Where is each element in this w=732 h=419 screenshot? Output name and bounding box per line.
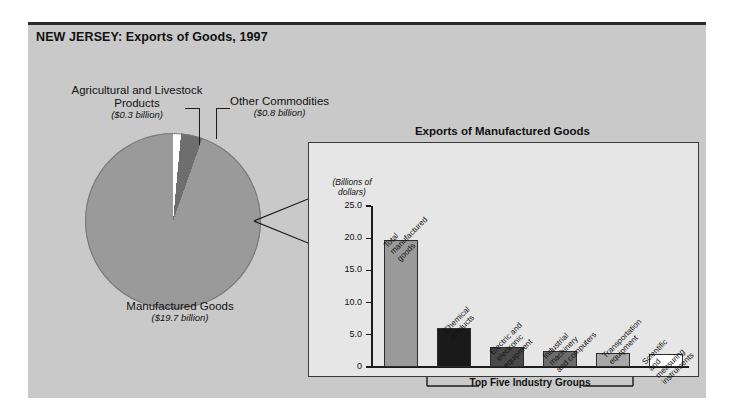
y-tick-label-5: 25.0 — [318, 200, 362, 210]
y-tick-5 — [366, 205, 371, 206]
inner-chart-title: Exports of Manufactured Goods — [308, 125, 697, 137]
pie-label-other-amount: ($0.8 billion) — [212, 108, 347, 119]
y-tick-0 — [366, 366, 371, 367]
pie-label-manufactured-amount: ($19.7 billion) — [105, 313, 255, 324]
leader-line-other-v — [216, 108, 217, 139]
figure-root: NEW JERSEY: Exports of Goods, 1997 Agric… — [0, 0, 732, 419]
pie-label-agricultural-amount: ($0.3 billion) — [62, 110, 212, 121]
leader-line-agricultural-h — [185, 108, 200, 109]
y-tick-2 — [366, 302, 371, 303]
y-tick-3 — [366, 270, 371, 271]
leader-line-other-h — [216, 108, 230, 109]
pie-label-other: Other Commodities ($0.8 billion) — [212, 95, 347, 119]
pie-slices — [85, 133, 261, 309]
title-rule — [28, 22, 706, 25]
y-tick-label-2: 10.0 — [318, 297, 362, 307]
page-title: NEW JERSEY: Exports of Goods, 1997 — [36, 30, 268, 44]
y-tick-label-3: 15.0 — [318, 264, 362, 274]
pie-label-manufactured-name: Manufactured Goods — [105, 300, 255, 313]
y-tick-label-0: 0 — [318, 361, 362, 371]
pie-label-agricultural-name: Agricultural and Livestock Products — [62, 84, 212, 110]
leader-line-agricultural-v — [199, 108, 200, 145]
y-tick-label-1: 5.0 — [318, 329, 362, 339]
y-axis-unit-label: (Billions of dollars) — [318, 178, 386, 198]
y-tick-label-4: 20.0 — [318, 232, 362, 242]
pie-label-agricultural: Agricultural and Livestock Products ($0.… — [62, 84, 212, 120]
inner-chart-box: (Billions of dollars) 05.010.015.020.025… — [308, 142, 699, 377]
pie-label-other-name: Other Commodities — [212, 95, 347, 108]
y-tick-1 — [366, 334, 371, 335]
pie-label-manufactured: Manufactured Goods ($19.7 billion) — [105, 300, 255, 324]
y-tick-4 — [366, 238, 371, 239]
bracket-label: Top Five Industry Groups — [371, 377, 689, 388]
pie-chart — [85, 133, 261, 309]
